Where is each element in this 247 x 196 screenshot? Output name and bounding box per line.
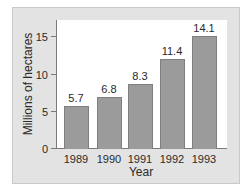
bar-1992: [160, 59, 185, 149]
y-axis-title: Millions of hectares: [22, 24, 35, 144]
x-tick-label: 1993: [184, 153, 224, 165]
x-axis-title: Year: [121, 166, 161, 179]
y-tick-5: [51, 111, 56, 112]
y-tick-15: [51, 36, 56, 37]
bar-1993: [192, 36, 217, 149]
bar-value-label: 8.3: [120, 70, 160, 82]
y-tick-10: [51, 74, 56, 75]
bar-value-label: 14.1: [184, 22, 224, 34]
bar-value-label: 6.8: [89, 83, 129, 95]
y-tick-0: [51, 148, 56, 149]
y-tick-label: 0: [28, 143, 48, 155]
bar-1991: [128, 84, 153, 149]
bar-1990: [97, 97, 122, 149]
bar-1989: [64, 106, 89, 149]
bar-value-label: 11.4: [152, 45, 192, 57]
